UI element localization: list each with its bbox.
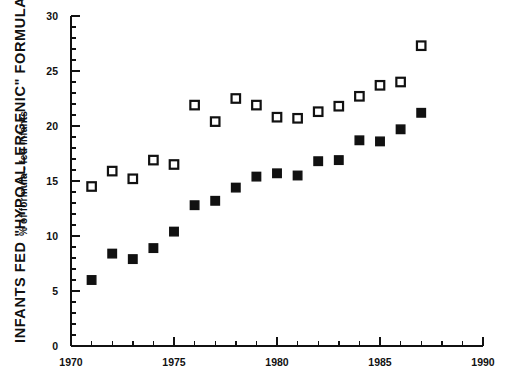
data-point-open-square-series-1971 <box>87 182 96 191</box>
data-point-open-square-series-1984 <box>355 92 364 101</box>
data-point-open-square-series-1980 <box>273 113 282 122</box>
data-point-open-square-series-1979 <box>252 101 261 110</box>
data-point-open-square-series-1975 <box>170 160 179 169</box>
data-point-filled-square-series-1974 <box>149 244 158 253</box>
y-tick-label-10: 10 <box>30 230 58 242</box>
data-point-filled-square-series-1977 <box>211 197 220 206</box>
data-point-filled-square-series-1981 <box>293 171 302 180</box>
data-point-filled-square-series-1983 <box>335 156 344 165</box>
data-point-open-square-series-1976 <box>190 101 199 110</box>
data-point-filled-square-series-1971 <box>87 276 96 285</box>
data-point-open-square-series-1978 <box>232 94 241 103</box>
chart-figure: INFANTS FED "HYPOALLERGENIC" FORMULAS % … <box>0 0 507 385</box>
y-tick-label-0: 0 <box>30 340 58 352</box>
data-point-filled-square-series-1976 <box>190 201 199 210</box>
data-point-filled-square-series-1973 <box>129 255 138 264</box>
x-tick-label-1985: 1985 <box>368 356 391 368</box>
x-tick-label-1975: 1975 <box>162 356 185 368</box>
y-tick-label-20: 20 <box>30 120 58 132</box>
data-point-open-square-series-1982 <box>314 107 323 116</box>
x-tick-label-1990: 1990 <box>471 356 494 368</box>
y-tick-label-30: 30 <box>30 10 58 22</box>
data-point-open-square-series-1981 <box>293 114 302 123</box>
data-point-filled-square-series-1972 <box>108 249 117 258</box>
data-point-open-square-series-1977 <box>211 117 220 126</box>
y-tick-label-15: 15 <box>30 175 58 187</box>
data-point-open-square-series-1973 <box>129 175 138 184</box>
data-point-open-square-series-1972 <box>108 167 117 176</box>
data-point-filled-square-series-1979 <box>252 172 261 181</box>
data-point-open-square-series-1974 <box>149 156 158 165</box>
y-tick-label-5: 5 <box>30 285 58 297</box>
data-point-open-square-series-1986 <box>396 78 405 87</box>
x-tick-label-1970: 1970 <box>59 356 82 368</box>
data-point-open-square-series-1985 <box>376 81 385 90</box>
data-point-filled-square-series-1980 <box>273 169 282 178</box>
data-point-filled-square-series-1985 <box>376 137 385 146</box>
data-points <box>87 41 425 284</box>
data-point-filled-square-series-1978 <box>232 183 241 192</box>
data-point-filled-square-series-1986 <box>396 125 405 134</box>
data-point-filled-square-series-1987 <box>417 109 426 118</box>
x-tick-label-1980: 1980 <box>265 356 288 368</box>
y-tick-label-25: 25 <box>30 65 58 77</box>
data-point-filled-square-series-1984 <box>355 136 364 145</box>
data-point-open-square-series-1983 <box>335 102 344 111</box>
data-point-filled-square-series-1982 <box>314 157 323 166</box>
plot-area <box>0 0 507 385</box>
data-point-open-square-series-1987 <box>417 41 426 50</box>
data-point-filled-square-series-1975 <box>170 227 179 236</box>
